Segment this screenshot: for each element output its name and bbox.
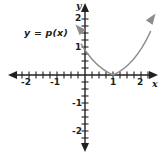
x-tick-label-neg1: -1 <box>50 78 60 87</box>
y-axis-label: y <box>76 1 82 10</box>
x-axis-label: x <box>152 79 158 88</box>
x-tick-label-neg2: -2 <box>21 78 31 87</box>
x-axis-left-arrow-icon <box>8 71 17 79</box>
y-tick-label-pos1: 1 <box>75 43 81 52</box>
parabola-curve <box>81 32 150 76</box>
curve-right-arrow-icon <box>146 14 156 25</box>
y-tick-label-neg2: -2 <box>72 127 82 136</box>
y-tick-label-neg1: -1 <box>72 99 82 108</box>
y-axis-top-arrow-icon <box>81 3 89 12</box>
graph-figure: -2 -1 1 2 2 1 -1 -2 x y y = p(x) <box>0 0 166 155</box>
x-tick-label-pos2: 2 <box>137 78 143 87</box>
y-axis-bottom-arrow-icon <box>81 143 89 152</box>
function-annotation-label: y = p(x) <box>24 27 68 38</box>
y-tick-label-pos2: 2 <box>75 14 81 23</box>
x-tick-label-pos1: 1 <box>110 78 116 87</box>
